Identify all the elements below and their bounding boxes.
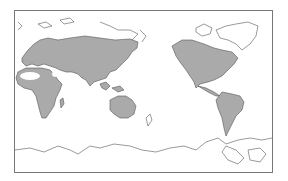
world-map [0,0,288,181]
